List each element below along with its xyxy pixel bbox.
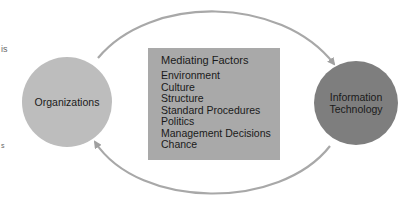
information-technology-node: Information Technology [314,61,398,145]
factor-item: Politics [161,116,280,128]
factor-item: Structure [161,93,280,105]
organizations-node: Organizations [22,57,112,147]
information-technology-label: Information Technology [329,91,382,115]
it-label-line1: Information [330,91,383,103]
factor-item: Chance [161,139,280,151]
cropped-text-fragment: is [1,44,8,54]
mediating-factors-title: Mediating Factors [161,54,280,67]
organizations-label: Organizations [35,96,100,108]
factor-item: Environment [161,70,280,82]
mediating-factors-box: Mediating Factors Environment Culture St… [148,48,280,160]
cropped-text-fragment: s [1,142,5,149]
it-label-line2: Technology [329,103,382,115]
